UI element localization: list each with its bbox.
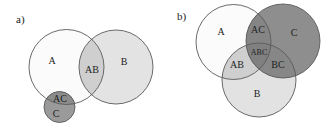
- panel-b-label-a: A: [217, 27, 224, 37]
- venn-figure: a) b) A AB B AC C A AC C ABC AB BC B: [0, 0, 336, 132]
- panel-a-label-b: B: [121, 57, 128, 67]
- panel-a-tag: a): [16, 14, 25, 25]
- panel-b-tag: b): [177, 11, 186, 22]
- panel-a-diagram: [29, 30, 153, 123]
- panel-b-label-b: B: [254, 89, 261, 99]
- panel-b-label-ac: AC: [251, 25, 265, 35]
- panel-a-label-c: C: [53, 109, 60, 119]
- panel-b-label-abc: ABC: [251, 49, 267, 57]
- panel-b-label-ab: AB: [230, 60, 244, 70]
- panel-a-label-ab: AB: [85, 65, 99, 75]
- venn-diagrams-svg: [0, 0, 336, 132]
- panel-b-diagram: [196, 4, 320, 117]
- panel-b-label-bc: BC: [271, 60, 284, 70]
- panel-a-label-ac: AC: [53, 94, 67, 104]
- panel-a-label-a: A: [48, 56, 55, 66]
- panel-b-label-c: C: [291, 28, 298, 38]
